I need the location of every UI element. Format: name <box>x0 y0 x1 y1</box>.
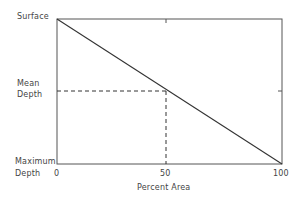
x-tick-100: 100 <box>273 169 289 179</box>
x-axis-label: Percent Area <box>137 183 190 193</box>
x-tick-50: 50 <box>160 169 171 179</box>
x-tick-0: 0 <box>54 169 59 179</box>
y-label-surface: Surface <box>17 12 49 22</box>
y-label-max-depth: Depth <box>15 169 40 179</box>
chart-canvas <box>0 0 299 199</box>
y-label-mean: Mean <box>17 79 40 89</box>
depth-area-line <box>57 19 282 164</box>
y-label-maximum: Maximum <box>15 157 56 167</box>
y-label-mean-depth: Depth <box>17 90 42 100</box>
